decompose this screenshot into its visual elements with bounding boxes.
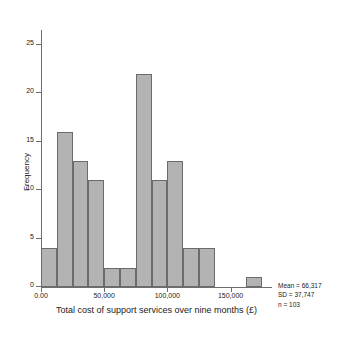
y-axis-tick — [36, 44, 41, 45]
histogram-bar — [120, 268, 136, 287]
histogram-bar — [104, 268, 120, 287]
histogram-bar — [167, 161, 183, 287]
y-axis-tick-label: 0 — [30, 281, 34, 288]
x-axis-line — [41, 287, 272, 288]
stat-n: n = 103 — [278, 300, 322, 309]
histogram-bar — [57, 132, 73, 287]
y-axis-tick-label: 15 — [26, 135, 34, 142]
histogram-bar — [41, 248, 57, 287]
histogram-bar — [136, 74, 152, 287]
y-axis-tick-label: 10 — [26, 184, 34, 191]
stat-mean: Mean = 66,317 — [278, 281, 322, 290]
stat-sd: SD = 37,747 — [278, 290, 322, 299]
x-axis-tick-label: 150,000 — [218, 292, 243, 299]
plot-area: 05101520250.0050,000100,000150,000 — [41, 35, 271, 287]
x-axis-tick-label: 50,000 — [93, 292, 114, 299]
x-axis-title: Total cost of support services over nine… — [41, 305, 272, 315]
y-axis-tick-label: 25 — [26, 38, 34, 45]
y-axis-tick — [36, 189, 41, 190]
histogram-bar — [88, 180, 104, 287]
y-axis-tick-label: 20 — [26, 87, 34, 94]
histogram-bar — [183, 248, 199, 287]
y-axis-tick-label: 5 — [30, 232, 34, 239]
histogram-bar — [73, 161, 89, 287]
y-axis-tick — [36, 238, 41, 239]
x-axis-tick-label: 100,000 — [155, 292, 180, 299]
y-axis-tick — [36, 141, 41, 142]
histogram-bar — [199, 248, 215, 287]
histogram-chart: Frequency 05101520250.0050,000100,000150… — [0, 0, 346, 343]
statistics-annotation: Mean = 66,317 SD = 37,747 n = 103 — [278, 281, 322, 309]
x-axis-tick-label: 0.00 — [34, 292, 48, 299]
histogram-bar — [246, 277, 262, 287]
y-axis-tick — [36, 92, 41, 93]
histogram-bar — [152, 180, 168, 287]
